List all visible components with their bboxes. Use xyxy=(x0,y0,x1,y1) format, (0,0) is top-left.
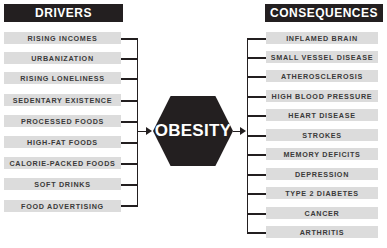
connector-line xyxy=(247,193,266,195)
connector-line xyxy=(247,76,266,78)
connector-line xyxy=(247,135,266,137)
driver-item: PROCESSED FOODS xyxy=(4,115,121,127)
drivers-bracket-line xyxy=(137,38,139,207)
connector-line xyxy=(121,142,138,144)
consequence-item: ATHEROSCLEROSIS xyxy=(266,70,378,82)
driver-item: FOOD ADVERTISING xyxy=(4,200,121,212)
consequence-item: STROKES xyxy=(266,129,378,141)
center-label: OBESITY xyxy=(155,121,232,141)
connector-line xyxy=(247,96,266,98)
consequence-item: HIGH BLOOD PRESSURE xyxy=(266,90,378,102)
consequence-item: INFLAMED BRAIN xyxy=(266,32,378,44)
driver-item: CALORIE-PACKED FOODS xyxy=(4,157,121,169)
connector-line xyxy=(121,38,138,40)
consequence-item: MEMORY DEFICITS xyxy=(266,148,378,160)
connector-line xyxy=(247,115,266,117)
driver-item: SEDENTARY EXISTENCE xyxy=(4,94,121,106)
connector-line xyxy=(247,213,266,215)
obesity-hexagon: OBESITY xyxy=(153,96,233,166)
driver-item: HIGH-FAT FOODS xyxy=(4,136,121,148)
driver-item: RISING INCOMES xyxy=(4,32,121,44)
drivers-header: DRIVERS xyxy=(4,4,123,22)
connector-line xyxy=(247,38,266,40)
consequence-item: TYPE 2 DIABETES xyxy=(266,187,378,199)
consequences-header: CONSEQUENCES xyxy=(265,4,383,22)
connector-line xyxy=(121,121,138,123)
connector-line xyxy=(247,174,266,176)
connector-line xyxy=(121,184,138,186)
consequence-item: DEPRESSION xyxy=(266,168,378,180)
connector-line xyxy=(121,163,138,165)
driver-item: SOFT DRINKS xyxy=(4,178,121,190)
driver-item: URBANIZATION xyxy=(4,52,121,64)
driver-item: RISING LONELINESS xyxy=(4,72,121,84)
consequence-item: CANCER xyxy=(266,207,378,219)
connector-line xyxy=(121,100,138,102)
connector-line xyxy=(121,205,138,207)
connector-line xyxy=(247,154,266,156)
connector-line xyxy=(121,58,138,60)
arrow-right-icon xyxy=(146,127,152,135)
consequence-item: SMALL VESSEL DISEASE xyxy=(266,51,378,63)
connector-line xyxy=(121,78,138,80)
consequence-item: ARTHRITIS xyxy=(266,226,378,238)
consequence-item: HEART DISEASE xyxy=(266,109,378,121)
connector-line xyxy=(247,57,266,59)
connector-line xyxy=(247,232,266,234)
arrow-right-icon xyxy=(240,127,246,135)
